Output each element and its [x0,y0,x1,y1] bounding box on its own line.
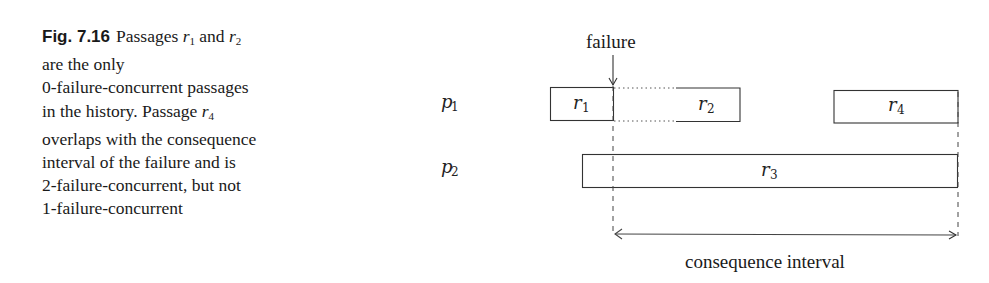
consequence-interval-arrow-icon [615,234,956,235]
passage-r2: r 2 [676,88,740,122]
failure-label: failure [586,31,636,52]
passage-r3: r 3 [583,155,958,188]
passage-r4: r 4 [834,91,958,124]
passage-r1: r 1 [551,88,614,121]
svg-text:1: 1 [582,101,590,115]
svg-text:2: 2 [707,102,715,116]
svg-text:4: 4 [897,103,905,117]
svg-text:3: 3 [770,168,778,182]
process-label-p2: p 2 [441,156,459,179]
passage-diagram: failure p 1 p 2 r 1 r 2 r 4 r 3 conseque [0,0,989,283]
svg-text:1: 1 [451,100,459,114]
svg-text:2: 2 [451,165,459,179]
consequence-interval-label: consequence interval [685,251,845,272]
process-label-p1: p 1 [441,91,459,114]
